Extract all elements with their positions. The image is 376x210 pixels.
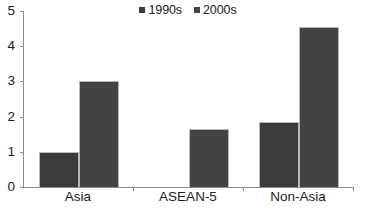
x-axis-category-labels: AsiaASEAN-5Non-Asia <box>23 190 354 210</box>
category-label-asean-5: ASEAN-5 <box>159 190 217 205</box>
y-axis-line <box>23 11 24 188</box>
x-axis-line <box>23 187 354 188</box>
y-tick-label-1: 1 <box>7 145 15 159</box>
y-tick-label-3: 3 <box>7 75 15 89</box>
y-tick-label-4: 4 <box>7 39 15 53</box>
y-tick-4: 4 <box>20 46 24 47</box>
category-label-non-asia: Non-Asia <box>270 190 326 205</box>
bar-asean-5-2000s <box>189 129 229 187</box>
bar-chart: 1990s 2000s 012345 AsiaASEAN-5Non-Asia <box>0 0 376 210</box>
y-tick-3: 3 <box>20 81 24 82</box>
y-tick-0: 0 <box>20 187 24 188</box>
y-tick-label-5: 5 <box>7 4 15 18</box>
bar-non-asia-1990s <box>259 122 299 187</box>
y-tick-2: 2 <box>20 117 24 118</box>
y-tick-label-0: 0 <box>7 180 15 194</box>
y-tick-5: 5 <box>20 11 24 12</box>
y-tick-1: 1 <box>20 152 24 153</box>
bar-non-asia-2000s <box>299 27 339 187</box>
category-label-asia: Asia <box>65 190 91 205</box>
bar-asia-1990s <box>39 152 79 187</box>
plot-area: 012345 <box>23 11 353 187</box>
bar-asia-2000s <box>79 81 119 187</box>
y-tick-label-2: 2 <box>7 110 15 124</box>
